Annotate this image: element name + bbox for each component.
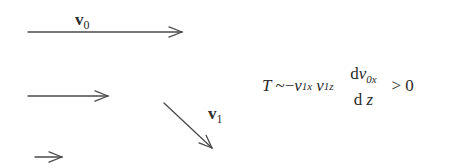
formula-T: T xyxy=(262,76,271,96)
derivative-numerator: dv0x xyxy=(349,65,377,87)
v1-label-sub: 1 xyxy=(217,112,223,126)
formula-zero: 0 xyxy=(405,76,414,96)
arrow-v0-medium xyxy=(28,91,108,101)
v0-label-base: v xyxy=(75,10,84,29)
arrow-v0-short xyxy=(35,152,62,162)
formula-v1x-sub: 1x xyxy=(302,80,312,92)
formula-v1z-sub: 1z xyxy=(324,80,334,92)
derivative-denominator: d z xyxy=(353,88,374,108)
reynolds-stress-formula: T ~ − v1x v1z dv0x d z > 0 xyxy=(262,66,414,106)
formula-v1z: v xyxy=(316,76,324,96)
formula-minus: − xyxy=(285,76,295,96)
formula-derivative: dv0x d z xyxy=(344,65,384,108)
v1-label-base: v xyxy=(208,104,217,123)
arrow-v0-long xyxy=(28,27,182,37)
v0-label: v0 xyxy=(75,11,90,31)
v0-label-sub: 0 xyxy=(84,18,90,32)
v1-label: v1 xyxy=(208,105,223,125)
arrow-v1 xyxy=(164,103,212,148)
formula-greater-than: > xyxy=(392,76,402,96)
formula-tilde: ~ xyxy=(275,76,284,96)
formula-v1x: v xyxy=(294,76,302,96)
